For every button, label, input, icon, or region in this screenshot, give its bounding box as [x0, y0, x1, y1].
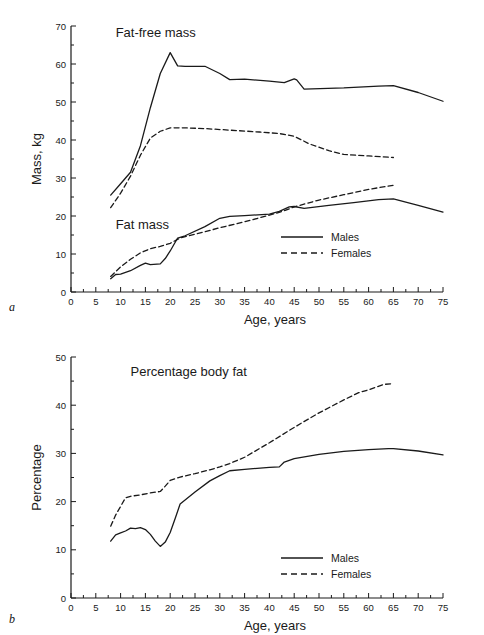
x-axis-tick-label: 20: [165, 296, 176, 307]
x-axis-tick-label: 15: [140, 602, 151, 613]
chart-legend: MalesFemales: [281, 231, 371, 259]
chart-legend: MalesFemales: [281, 552, 371, 580]
chart-annotation: Fat mass: [116, 217, 170, 232]
legend-label-males: Males: [331, 231, 359, 243]
chart-panel-a: 0510152025303540455055606570750102030405…: [0, 0, 484, 330]
x-axis-tick-label: 10: [115, 602, 126, 613]
x-axis-tick-label: 5: [93, 296, 98, 307]
y-axis-tick-label: 30: [55, 448, 66, 459]
panel-letter-a: a: [9, 300, 15, 315]
panel-letter-b: b: [9, 612, 15, 627]
y-axis-tick-label: 0: [61, 287, 66, 298]
chart-annotation: Fat-free mass: [116, 25, 197, 40]
x-axis-tick-label: 5: [93, 602, 98, 613]
x-axis-tick-label: 35: [239, 296, 250, 307]
x-axis-tick-label: 60: [363, 602, 374, 613]
x-axis-title: Age, years: [244, 312, 307, 327]
series-line-males-percentage-body-fat: [111, 449, 443, 547]
x-axis-tick-label: 10: [115, 296, 126, 307]
legend-label-females: Females: [331, 247, 371, 259]
x-axis-tick-label: 60: [363, 296, 374, 307]
x-axis-tick-label: 50: [314, 602, 325, 613]
x-axis-tick-label: 70: [413, 296, 424, 307]
legend-label-females: Females: [331, 568, 371, 580]
chart-panel-b: 0510152025303540455055606570750102030405…: [0, 330, 484, 635]
x-axis-tick-label: 40: [264, 296, 275, 307]
y-axis-title: Percentage: [29, 444, 44, 511]
x-axis-tick-label: 55: [339, 602, 350, 613]
x-axis-tick-label: 75: [438, 296, 449, 307]
y-axis-tick-label: 20: [55, 496, 66, 507]
y-axis-tick-label: 30: [55, 173, 66, 184]
percentage-body-fat-chart: 0510152025303540455055606570750102030405…: [0, 330, 484, 635]
x-axis-tick-label: 65: [388, 602, 399, 613]
y-axis-title: Mass, kg: [29, 133, 44, 185]
legend-label-males: Males: [331, 552, 359, 564]
x-axis-tick-label: 25: [190, 296, 201, 307]
x-axis-tick-label: 15: [140, 296, 151, 307]
series-line-males-fat-mass: [111, 199, 443, 279]
series-line-females-percentage-body-fat: [111, 384, 394, 527]
x-axis-tick-label: 40: [264, 602, 275, 613]
y-axis-tick-label: 0: [61, 593, 66, 604]
x-axis-tick-label: 35: [239, 602, 250, 613]
x-axis-tick-label: 30: [215, 296, 226, 307]
x-axis-tick-label: 20: [165, 602, 176, 613]
y-axis-tick-label: 20: [55, 211, 66, 222]
x-axis-tick-label: 25: [190, 602, 201, 613]
x-axis-tick-label: 0: [68, 296, 73, 307]
x-axis-tick-label: 45: [289, 602, 300, 613]
y-axis-tick-label: 50: [55, 352, 66, 363]
y-axis-tick-label: 70: [55, 21, 66, 32]
x-axis-tick-label: 50: [314, 296, 325, 307]
y-axis-tick-label: 10: [55, 249, 66, 260]
x-axis-tick-label: 30: [215, 602, 226, 613]
series-line-females-fat-free-mass: [111, 128, 394, 208]
y-axis-tick-label: 10: [55, 544, 66, 555]
x-axis-tick-label: 65: [388, 296, 399, 307]
y-axis-tick-label: 60: [55, 59, 66, 70]
x-axis-tick-label: 0: [68, 602, 73, 613]
y-axis-tick-label: 40: [55, 135, 66, 146]
y-axis-tick-label: 40: [55, 400, 66, 411]
x-axis-tick-label: 45: [289, 296, 300, 307]
x-axis-title: Age, years: [244, 618, 307, 633]
chart-annotation: Percentage body fat: [131, 364, 248, 379]
fat-free-mass-and-fat-mass-chart: 0510152025303540455055606570750102030405…: [0, 0, 484, 330]
x-axis-tick-label: 70: [413, 602, 424, 613]
y-axis-tick-label: 50: [55, 97, 66, 108]
series-line-males-fat-free-mass: [111, 53, 443, 196]
x-axis-tick-label: 75: [438, 602, 449, 613]
x-axis-tick-label: 55: [339, 296, 350, 307]
